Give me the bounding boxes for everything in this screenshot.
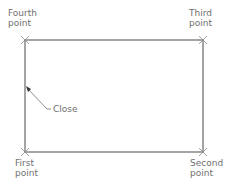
first-point-label: First point — [15, 158, 38, 178]
close-label: Close — [53, 104, 78, 114]
point-markers — [21, 36, 207, 156]
second-point-label: Second point — [190, 158, 223, 178]
fourth-point-label: Fourth point — [8, 8, 37, 28]
rectangle-outline — [25, 40, 203, 152]
third-point-label: Third point — [189, 8, 212, 28]
close-leader — [26, 86, 51, 109]
